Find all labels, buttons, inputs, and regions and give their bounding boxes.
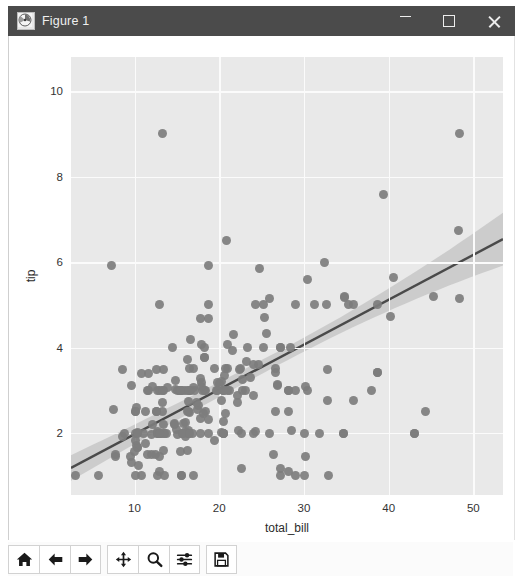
figure-canvas[interactable]: 1020304050 246810 total_bill tip <box>9 36 514 536</box>
scatter-point <box>276 343 285 352</box>
scatter-point <box>168 343 177 352</box>
scatter-point <box>204 300 213 309</box>
scatter-point <box>204 429 213 438</box>
scatter-point <box>183 446 192 455</box>
scatter-point <box>155 452 164 461</box>
gridline-horizontal <box>71 262 503 263</box>
zoom-button[interactable] <box>138 545 169 574</box>
arrow-right-icon <box>77 551 94 568</box>
scatter-point <box>265 429 274 438</box>
gridline-horizontal <box>71 177 503 178</box>
figure-window: Figure 1 1020304050 246810 total_bill ti… <box>0 0 515 576</box>
scatter-point <box>185 429 194 438</box>
scatter-point <box>284 407 293 416</box>
arrow-left-icon <box>47 551 64 568</box>
scatter-point <box>273 380 282 389</box>
scatter-point <box>118 365 127 374</box>
scatter-point <box>133 428 142 437</box>
scatter-point <box>249 391 258 400</box>
scatter-point <box>303 386 312 395</box>
scatter-point <box>155 300 164 309</box>
scatter-point <box>186 335 195 344</box>
home-button[interactable] <box>8 545 39 574</box>
scatter-point <box>171 376 180 385</box>
scatter-point <box>137 369 146 378</box>
floppy-disk-icon <box>213 551 230 568</box>
scatter-point <box>276 471 285 480</box>
scatter-point <box>170 419 179 428</box>
x-tick-label: 30 <box>298 502 311 514</box>
scatter-point <box>204 314 213 323</box>
scatter-point <box>421 407 430 416</box>
scatter-point <box>243 343 252 352</box>
magnifier-icon <box>146 551 163 568</box>
scatter-point <box>324 471 333 480</box>
scatter-point <box>217 396 226 405</box>
scatter-point <box>323 365 332 374</box>
scatter-point <box>223 340 232 349</box>
scatter-point <box>303 275 312 284</box>
scatter-point <box>237 464 246 473</box>
plot-area[interactable] <box>71 57 503 495</box>
scatter-point <box>144 386 153 395</box>
scatter-point <box>177 471 186 480</box>
scatter-point <box>241 386 250 395</box>
close-icon <box>487 15 500 28</box>
scatter-point <box>322 300 331 309</box>
y-tick-label: 8 <box>45 171 63 183</box>
configure-subplots-button[interactable] <box>169 545 200 574</box>
matplotlib-icon <box>17 12 35 30</box>
scatter-point <box>200 343 209 352</box>
scatter-point <box>246 373 255 382</box>
scatter-point <box>210 436 219 445</box>
save-button[interactable] <box>206 545 237 574</box>
minimize-button[interactable] <box>383 2 427 41</box>
scatter-point <box>184 397 193 406</box>
forward-button[interactable] <box>70 545 101 574</box>
scatter-point <box>237 429 246 438</box>
scatter-point <box>229 330 238 339</box>
scatter-point <box>71 471 80 480</box>
x-tick-label: 20 <box>213 502 226 514</box>
x-axis-label: total_bill <box>265 521 309 535</box>
scatter-point <box>183 355 192 364</box>
scatter-point <box>141 407 150 416</box>
scatter-point <box>222 236 231 245</box>
x-tick-label: 50 <box>467 502 480 514</box>
scatter-point <box>260 313 269 322</box>
back-button[interactable] <box>39 545 70 574</box>
scatter-point <box>158 398 167 407</box>
scatter-point <box>251 300 260 309</box>
scatter-point <box>284 386 293 395</box>
scatter-point <box>94 471 103 480</box>
scatter-point <box>373 368 382 377</box>
scatter-point <box>373 300 382 309</box>
scatter-point <box>271 364 280 373</box>
x-tick-label: 40 <box>382 502 395 514</box>
y-tick-label: 10 <box>45 85 63 97</box>
y-tick-label: 4 <box>45 342 63 354</box>
scatter-point <box>249 429 258 438</box>
close-button[interactable] <box>471 6 515 36</box>
scatter-point <box>111 450 120 459</box>
maximize-button[interactable] <box>427 6 471 36</box>
gridline-horizontal <box>71 91 503 92</box>
scatter-point <box>455 129 464 138</box>
maximize-icon <box>443 15 455 27</box>
home-icon <box>16 551 33 568</box>
scatter-point <box>265 294 274 303</box>
scatter-point <box>367 386 376 395</box>
scatter-point <box>221 364 230 373</box>
scatter-point <box>455 294 464 303</box>
matplotlib-toolbar <box>8 542 513 576</box>
scatter-point <box>131 471 140 480</box>
scatter-point <box>349 396 358 405</box>
scatter-point <box>310 300 319 309</box>
scatter-point <box>197 378 206 387</box>
scatter-point <box>200 353 209 362</box>
window-title: Figure 1 <box>42 14 89 28</box>
scatter-point <box>134 461 143 470</box>
scatter-point <box>300 429 309 438</box>
scatter-point <box>158 129 167 138</box>
pan-button[interactable] <box>107 545 138 574</box>
